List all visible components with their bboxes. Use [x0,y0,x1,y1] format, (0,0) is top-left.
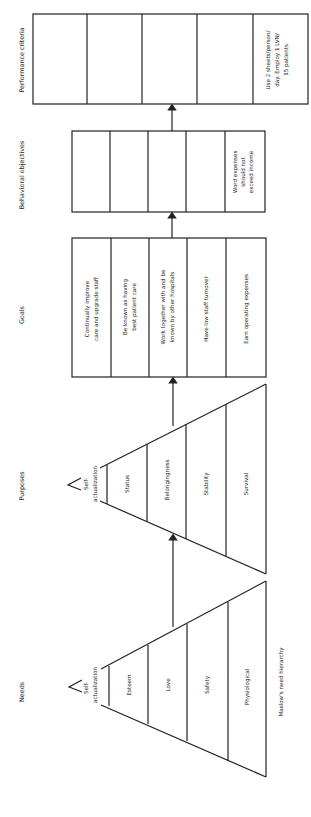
purposes-level-survival: Survival [243,472,249,495]
purposes-level-belongingness: Belongingness [164,460,171,501]
goals-box: Continually improve care and upgrade sta… [72,238,266,377]
goal-3-line1: Work together with and be [160,269,167,344]
needs-caption: Maslow's need hierarchy [278,647,285,717]
needs-level-love: Love [165,678,171,692]
needs-apex-line1: Self- [83,682,89,694]
purposes-level-status: Status [124,475,130,493]
goal-2-line1: Be known as having [122,278,129,335]
header-goals: Goals [18,305,26,324]
needs-level-esteem: Esteem [126,675,132,696]
goal-2-line2: best patient care [131,283,138,331]
goal-1-line1: Continually improve [84,280,91,337]
goal-4: Have low staff turnover [203,275,209,341]
header-purposes: Purposes [18,471,26,501]
purposes-pyramid: Self- actualization Status Belongingness… [68,384,266,574]
needs-apex-line2: actualization [92,667,98,703]
performance-criterion-5-line3: 15 patients [283,44,290,76]
goal-1-line2: care and upgrade staff [93,277,100,341]
goals-hierarchy-diagram: Needs Purposes Goals Behavioral objectiv… [0,0,311,817]
performance-criterion-5-line2: day. Employ 1 LVN/ [274,33,281,86]
behavioral-objective-5-line3: exceed income [248,150,254,193]
purposes-apex-line2: actualization [92,466,98,502]
goal-5: Earn operating expenses [243,274,250,344]
header-behavioral-objectives: Behavioral objectives [18,140,26,209]
purposes-level-stability: Stability [203,472,210,496]
behavioral-objective-5-line1: Word expenses [232,151,239,194]
needs-level-safety: Safety [204,675,211,694]
header-needs: Needs [18,681,26,702]
behavioral-objectives-box: Word expenses should not exceed income [72,131,265,212]
goal-3-line2: known by other hospitals [169,272,176,343]
header-performance-criteria: Performance criteria [18,27,26,92]
performance-criterion-5-line1: Use 2 sheets/person/ [265,30,272,89]
needs-pyramid: Self- actualization Esteem Love Safety P… [69,581,285,777]
needs-level-physiological: Physiological [244,668,251,705]
purposes-apex-line1: Self- [83,478,89,490]
behavioral-objective-5-line2: should not [240,156,246,186]
performance-criteria-box: Use 2 sheets/person/ day. Employ 1 LVN/ … [33,14,308,104]
